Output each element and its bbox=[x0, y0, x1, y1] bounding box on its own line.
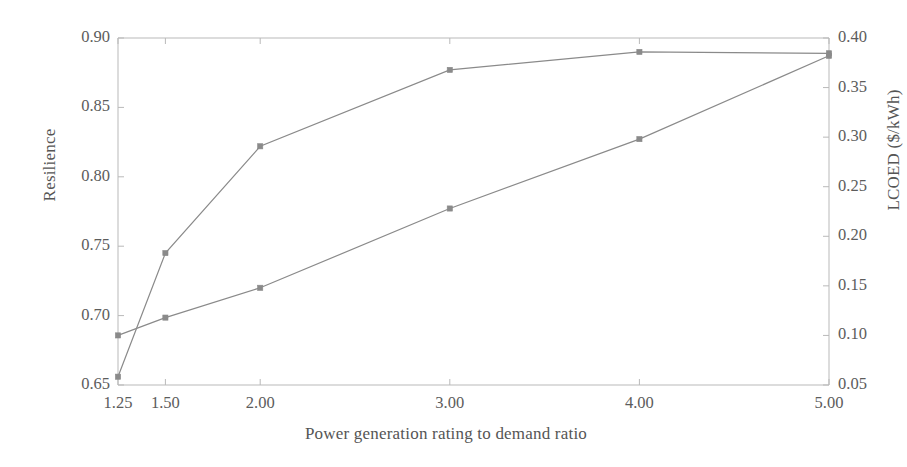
x-axis-title: Power generation rating to demand ratio bbox=[0, 424, 892, 444]
y-axis-left-tick-label: 0.70 bbox=[52, 305, 110, 325]
series-marker-1[interactable] bbox=[637, 137, 642, 142]
series-marker-0[interactable] bbox=[447, 67, 452, 72]
y-axis-left-tick-label: 0.80 bbox=[52, 166, 110, 186]
y-axis-left-tick-label: 0.65 bbox=[52, 374, 110, 394]
y-axis-right-tick-label: 0.20 bbox=[838, 225, 896, 245]
y-axis-right-tick-label: 0.40 bbox=[838, 27, 896, 47]
y-axis-left-tick-label: 0.90 bbox=[52, 27, 110, 47]
y-axis-right-tick-label: 0.25 bbox=[838, 176, 896, 196]
x-axis-tick-label: 5.00 bbox=[794, 393, 864, 413]
x-axis-tick-label: 1.50 bbox=[130, 393, 200, 413]
series-marker-0[interactable] bbox=[115, 374, 120, 379]
x-axis-tick-label: 2.00 bbox=[225, 393, 295, 413]
series-marker-1[interactable] bbox=[258, 285, 263, 290]
series-line-0 bbox=[118, 52, 829, 377]
y-axis-right-tick-label: 0.35 bbox=[838, 77, 896, 97]
series-marker-1[interactable] bbox=[447, 206, 452, 211]
y-axis-right-tick-label: 0.15 bbox=[838, 275, 896, 295]
y-axis-right-tick-label: 0.30 bbox=[838, 126, 896, 146]
series-marker-0[interactable] bbox=[637, 49, 642, 54]
x-axis-tick-label: 3.00 bbox=[415, 393, 485, 413]
series-marker-1[interactable] bbox=[163, 315, 168, 320]
series-marker-1[interactable] bbox=[826, 53, 831, 58]
y-axis-left-tick-label: 0.75 bbox=[52, 235, 110, 255]
x-axis-tick-label: 4.00 bbox=[604, 393, 674, 413]
series-marker-0[interactable] bbox=[258, 144, 263, 149]
y-axis-right-tick-label: 0.10 bbox=[838, 324, 896, 344]
series-marker-1[interactable] bbox=[115, 333, 120, 338]
series-marker-0[interactable] bbox=[163, 251, 168, 256]
y-axis-left-tick-label: 0.85 bbox=[52, 96, 110, 116]
y-axis-right-tick-label: 0.05 bbox=[838, 374, 896, 394]
series-line-1 bbox=[118, 56, 829, 336]
